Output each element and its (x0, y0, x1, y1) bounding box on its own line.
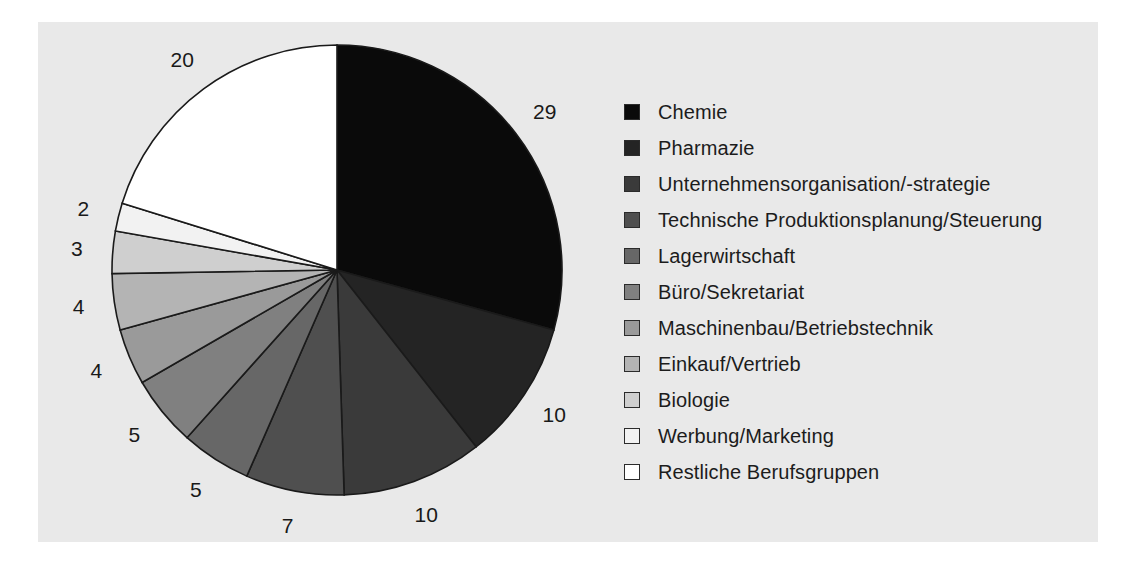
legend-item[interactable]: Büro/Sekretariat (624, 274, 1074, 310)
pie-data-label: 2 (78, 197, 90, 220)
legend-swatch-icon (624, 356, 640, 372)
legend-swatch-icon (624, 428, 640, 444)
legend-item-label: Restliche Berufsgruppen (658, 461, 879, 484)
legend-swatch-icon (624, 140, 640, 156)
legend-item[interactable]: Technische Produktionsplanung/Steuerung (624, 202, 1074, 238)
legend-item-label: Einkauf/Vertrieb (658, 353, 801, 376)
legend-item-label: Chemie (658, 101, 728, 124)
legend-item-label: Werbung/Marketing (658, 425, 834, 448)
legend-item[interactable]: Werbung/Marketing (624, 418, 1074, 454)
legend: ChemiePharmazieUnternehmensorganisation/… (624, 94, 1074, 490)
pie-data-label: 7 (282, 514, 294, 537)
pie-data-label: 4 (90, 359, 102, 382)
legend-swatch-icon (624, 320, 640, 336)
pie-data-label: 20 (171, 48, 194, 71)
legend-item-label: Biologie (658, 389, 730, 412)
legend-item-label: Unternehmensorganisation/-strategie (658, 173, 991, 196)
legend-item-label: Maschinenbau/Betriebstechnik (658, 317, 933, 340)
legend-item[interactable]: Pharmazie (624, 130, 1074, 166)
legend-item-label: Büro/Sekretariat (658, 281, 804, 304)
legend-item-label: Technische Produktionsplanung/Steuerung (658, 209, 1042, 232)
pie-data-label: 29 (533, 100, 556, 123)
legend-swatch-icon (624, 212, 640, 228)
pie-slices-group (112, 45, 562, 495)
chart-panel: 291010755443220 ChemiePharmazieUnternehm… (38, 22, 1098, 542)
legend-swatch-icon (624, 176, 640, 192)
legend-item[interactable]: Unternehmensorganisation/-strategie (624, 166, 1074, 202)
legend-swatch-icon (624, 104, 640, 120)
legend-swatch-icon (624, 392, 640, 408)
legend-item[interactable]: Chemie (624, 94, 1074, 130)
legend-item-label: Pharmazie (658, 137, 755, 160)
legend-item-label: Lagerwirtschaft (658, 245, 795, 268)
legend-swatch-icon (624, 248, 640, 264)
legend-item[interactable]: Biologie (624, 382, 1074, 418)
legend-swatch-icon (624, 464, 640, 480)
pie-data-label: 5 (190, 478, 202, 501)
pie-data-label: 10 (543, 403, 566, 426)
legend-item[interactable]: Lagerwirtschaft (624, 238, 1074, 274)
pie-data-label: 10 (415, 503, 438, 526)
legend-item[interactable]: Maschinenbau/Betriebstechnik (624, 310, 1074, 346)
pie-data-label: 4 (73, 295, 85, 318)
legend-item[interactable]: Restliche Berufsgruppen (624, 454, 1074, 490)
figure-root: 291010755443220 ChemiePharmazieUnternehm… (0, 0, 1129, 569)
pie-data-label: 3 (71, 237, 83, 260)
legend-item[interactable]: Einkauf/Vertrieb (624, 346, 1074, 382)
pie-data-label: 5 (129, 423, 141, 446)
legend-swatch-icon (624, 284, 640, 300)
